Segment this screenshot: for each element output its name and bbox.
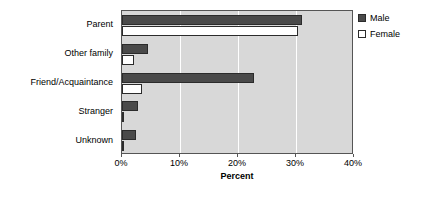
- tick-label-20%: 20%: [217, 158, 257, 168]
- bar-female-0: [122, 26, 298, 36]
- category-label-unknown: Unknown: [0, 135, 113, 145]
- legend-swatch-male-icon: [358, 14, 366, 22]
- bar-female-4: [122, 141, 124, 151]
- category-axis: Parent Other family Friend/Acquaintance …: [0, 10, 117, 154]
- legend: Male Female: [358, 11, 400, 43]
- bar-male-1: [122, 44, 148, 54]
- tick-label-30%: 30%: [275, 158, 315, 168]
- x-axis-title: Percent: [121, 171, 353, 181]
- category-label-friend-acquaintance: Friend/Acquaintance: [0, 77, 113, 87]
- tick-mark: [237, 154, 238, 157]
- category-label-parent: Parent: [0, 19, 113, 29]
- tick-mark: [121, 154, 122, 157]
- bar-group: [122, 11, 352, 40]
- bar-group: [122, 69, 352, 98]
- category-label-stranger: Stranger: [0, 106, 113, 116]
- tick-label-10%: 10%: [159, 158, 199, 168]
- legend-swatch-female-icon: [358, 30, 366, 38]
- tick-mark: [295, 154, 296, 157]
- bar-male-2: [122, 73, 254, 83]
- plot-area: [121, 10, 353, 154]
- tick-label-0%: 0%: [101, 158, 141, 168]
- bar-group: [122, 40, 352, 69]
- bar-group: [122, 97, 352, 126]
- bar-female-1: [122, 55, 134, 65]
- legend-item-male: Male: [358, 11, 400, 25]
- legend-label-male: Male: [370, 13, 390, 23]
- tick-mark: [353, 154, 354, 157]
- legend-item-female: Female: [358, 27, 400, 41]
- tick-label-40%: 40%: [333, 158, 373, 168]
- category-label-other-family: Other family: [0, 48, 113, 58]
- bar-female-3: [122, 112, 124, 122]
- bar-male-0: [122, 15, 302, 25]
- bar-male-3: [122, 101, 138, 111]
- legend-label-female: Female: [370, 29, 400, 39]
- bar-male-4: [122, 130, 136, 140]
- bar-female-2: [122, 84, 142, 94]
- bar-group: [122, 126, 352, 155]
- tick-mark: [179, 154, 180, 157]
- bar-chart: Parent Other family Friend/Acquaintance …: [0, 0, 434, 200]
